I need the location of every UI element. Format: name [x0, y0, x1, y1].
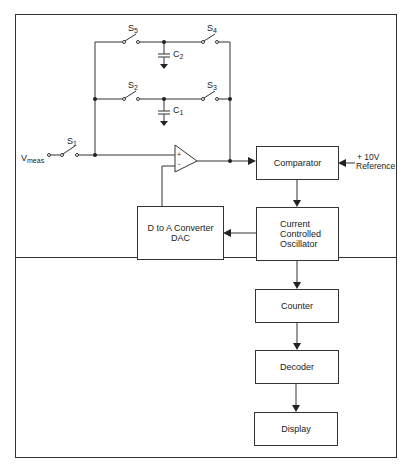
display-block: Display: [254, 412, 338, 446]
switch-s3-label: S3: [207, 80, 217, 93]
cco-block: Current Controlled Oscillator: [256, 207, 339, 261]
switch-s1-label: S1: [67, 136, 77, 149]
ground-icon: [160, 121, 168, 126]
dac-block: D to A Converter DAC: [137, 206, 224, 260]
ground-icon: [160, 64, 168, 69]
vmeas-label: Vmeas: [21, 153, 44, 166]
opamp-minus: -: [178, 159, 180, 169]
switch-s2-label: S2: [128, 80, 138, 93]
capacitor-c2-label: C2: [173, 49, 183, 62]
reference-label: + 10V Reference: [356, 153, 395, 171]
comparator-block: Comparator: [256, 146, 339, 180]
decoder-block: Decoder: [255, 350, 339, 384]
counter-block: Counter: [255, 289, 339, 323]
switch-s4-label: S4: [207, 23, 217, 36]
capacitor-c1-label: C1: [173, 105, 183, 118]
switch-s5-label: S5: [128, 23, 138, 36]
